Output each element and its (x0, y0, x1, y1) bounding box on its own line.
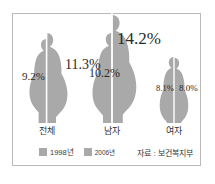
figure-divider-total (46, 29, 48, 123)
chart-plot-area: 전체 남자 (13, 14, 200, 165)
value-label-female-2006: 8.0% (179, 84, 198, 93)
legend-label-2006: 2006년 (95, 147, 115, 157)
legend-item-1998: 1998년 (39, 146, 74, 157)
value-label-male-2006: 14.2% (117, 30, 161, 47)
legend-item-2006: 2006년 (84, 147, 115, 157)
legend-swatch-2006 (84, 148, 92, 156)
silhouette-total-2006 (47, 33, 68, 123)
chart-frame: 전체 남자 (12, 13, 201, 166)
value-label-female-1998: 8.1% (156, 84, 174, 93)
value-label-male-1998: 10.2% (89, 67, 120, 79)
source-note: 자료 : 보건복지부 (137, 147, 193, 158)
category-label-male: 남자 (81, 124, 143, 137)
legend-label-1998: 1998년 (50, 146, 74, 157)
value-label-total-1998: 9.2% (22, 71, 45, 82)
legend-swatch-1998 (39, 148, 47, 156)
category-label-total: 전체 (19, 124, 75, 137)
chart-legend: 1998년 2006년 (39, 146, 115, 157)
category-label-female: 여자 (149, 124, 199, 137)
